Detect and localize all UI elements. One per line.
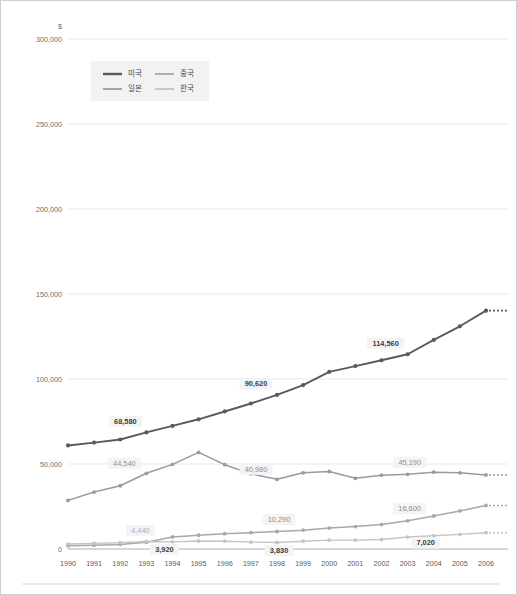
y-axis-tick-label: 0 [58, 545, 62, 554]
data-point [66, 542, 70, 546]
data-point [301, 383, 305, 387]
line-chart: 050,000100,000150,000200,000250,000300,0… [0, 0, 517, 595]
x-axis-tick-label: 2006 [478, 559, 494, 568]
x-axis-tick-label: 1991 [86, 559, 102, 568]
data-point [484, 531, 488, 535]
data-point [484, 473, 488, 477]
data-point [301, 539, 305, 543]
data-point [458, 532, 462, 536]
gridlines [22, 39, 508, 584]
y-axis-tick-label: 200,000 [36, 205, 62, 214]
data-label: 16,600 [398, 504, 421, 513]
y-axis-tick-label: 50,000 [40, 460, 62, 469]
x-axis-tick-label: 1997 [243, 559, 259, 568]
data-point [458, 324, 462, 328]
data-point [171, 462, 175, 466]
data-point [249, 401, 253, 405]
data-point [353, 525, 357, 529]
data-point [197, 417, 201, 421]
page-border [1, 1, 517, 595]
legend-background [91, 61, 209, 101]
data-point [432, 514, 436, 518]
data-series [68, 311, 508, 546]
data-point [197, 451, 201, 455]
y-axis-tick-labels: 050,000100,000150,000200,000250,000300,0… [36, 35, 62, 554]
data-point [223, 532, 227, 536]
y-axis-tick-label: 150,000 [36, 290, 62, 299]
data-point [406, 535, 410, 539]
x-axis-tick-label: 1998 [269, 559, 285, 568]
data-point [223, 463, 227, 467]
data-point [118, 437, 122, 441]
data-point [92, 541, 96, 545]
data-point [380, 538, 384, 542]
data-label: 3,920 [155, 545, 174, 554]
data-point [301, 528, 305, 532]
data-point [432, 534, 436, 538]
data-point [484, 309, 488, 313]
chart-legend: 미국중국일본한국 [91, 61, 209, 101]
data-label: 4,440 [131, 526, 150, 535]
data-point [118, 484, 122, 488]
data-label: 68,580 [114, 417, 137, 426]
data-label: 3,830 [270, 546, 289, 555]
legend-label-1: 중국 [180, 69, 194, 78]
data-point [170, 424, 174, 428]
legend-label-3: 한국 [180, 84, 194, 93]
data-point [458, 509, 462, 513]
y-axis-tick-label: 250,000 [36, 120, 62, 129]
data-label: 10,290 [268, 515, 291, 524]
data-point [327, 370, 331, 374]
y-axis-tick-label: 100,000 [36, 375, 62, 384]
x-axis-tick-label: 2005 [452, 559, 468, 568]
x-axis-tick-label: 1999 [295, 559, 311, 568]
data-point [171, 540, 175, 544]
data-point [275, 541, 279, 545]
data-point [301, 471, 305, 475]
data-point [249, 531, 253, 535]
unit-label: $ [58, 22, 62, 31]
data-point [380, 523, 384, 527]
data-point [327, 470, 331, 474]
data-point [66, 443, 70, 447]
x-axis-tick-label: 1992 [112, 559, 128, 568]
x-axis-tick-label: 1993 [138, 559, 154, 568]
data-point [353, 538, 357, 542]
data-point [171, 535, 175, 539]
data-point [66, 498, 70, 502]
data-point [118, 541, 122, 545]
x-axis-tick-label: 1995 [191, 559, 207, 568]
legend-label-2: 일본 [128, 84, 142, 93]
data-point [406, 352, 410, 356]
data-point [484, 504, 488, 508]
data-point [406, 519, 410, 523]
x-axis-tick-label: 1994 [165, 559, 181, 568]
x-axis-tick-label: 1996 [217, 559, 233, 568]
x-axis-tick-label: 2002 [374, 559, 390, 568]
data-point [380, 473, 384, 477]
data-label: 90,620 [245, 379, 268, 388]
x-axis-tick-label: 2004 [426, 559, 442, 568]
data-point [223, 539, 227, 543]
data-point [144, 540, 148, 544]
data-label: 114,560 [372, 339, 398, 348]
x-axis-tick-label: 2001 [347, 559, 363, 568]
data-point [379, 358, 383, 362]
data-label: 7,020 [416, 538, 435, 547]
data-point [458, 471, 462, 475]
data-point [327, 526, 331, 530]
data-point [275, 477, 279, 481]
data-point [275, 530, 279, 534]
legend-label-0: 미국 [128, 69, 142, 78]
data-point [249, 540, 253, 544]
data-point [432, 338, 436, 342]
data-label: 44,540 [113, 459, 136, 468]
y-axis-tick-label: 300,000 [36, 35, 62, 44]
data-point [144, 471, 148, 475]
data-label: 40,980 [245, 465, 268, 474]
data-label: 45,190 [398, 458, 421, 467]
data-point [197, 539, 201, 543]
data-point [92, 490, 96, 494]
data-point [406, 472, 410, 476]
data-point [327, 538, 331, 542]
